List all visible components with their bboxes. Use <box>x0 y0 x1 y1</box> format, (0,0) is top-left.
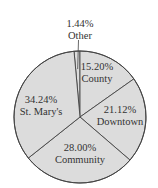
label-county-name: County <box>81 73 113 85</box>
label-county: 15.20% County <box>81 61 113 85</box>
label-downtown: 21.12% Downtown <box>97 104 144 128</box>
label-community-pct: 28.00% <box>55 142 105 154</box>
label-other: 1.44% Other <box>66 18 93 42</box>
label-other-pct: 1.44% <box>66 18 93 30</box>
label-downtown-name: Downtown <box>97 116 144 128</box>
label-st-marys-name: St. Mary's <box>20 106 63 118</box>
label-st-marys-pct: 34.24% <box>20 94 63 106</box>
label-community-name: Community <box>55 154 105 166</box>
label-other-name: Other <box>66 30 93 42</box>
label-county-pct: 15.20% <box>81 61 113 73</box>
label-community: 28.00% Community <box>55 142 105 166</box>
label-st-marys: 34.24% St. Mary's <box>20 94 63 118</box>
label-downtown-pct: 21.12% <box>97 104 144 116</box>
